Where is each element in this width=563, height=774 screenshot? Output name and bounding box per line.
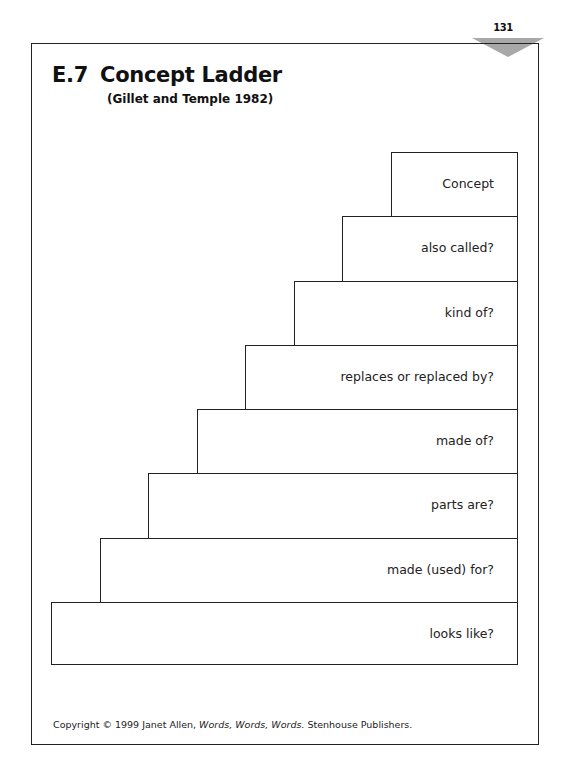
ladder-step-made-of[interactable]: made of? (197, 409, 518, 474)
step-label: replaces or replaced by? (341, 369, 495, 384)
ladder-step-looks-like[interactable]: looks like? (51, 602, 518, 665)
step-label: Concept (442, 176, 494, 191)
copyright-notice: Copyright © 1999 Janet Allen, Words, Wor… (53, 719, 412, 730)
page-title: E.7Concept Ladder (52, 63, 282, 87)
copyright-publisher: Stenhouse Publishers. (304, 719, 412, 730)
ladder-step-parts-are[interactable]: parts are? (148, 473, 518, 539)
step-label: parts are? (431, 497, 494, 512)
book-title: Words, Words, Words. (199, 719, 304, 730)
step-label: also called? (421, 240, 494, 255)
page-number: 131 (493, 22, 513, 33)
page-subtitle: (Gillet and Temple 1982) (107, 92, 273, 106)
section-number: E.7 (52, 63, 88, 87)
step-label: made of? (436, 433, 494, 448)
ladder-step-concept[interactable]: Concept (391, 152, 518, 217)
ladder-step-also-called[interactable]: also called? (342, 216, 518, 282)
ladder-step-kind-of[interactable]: kind of? (294, 281, 518, 346)
step-label: kind of? (445, 305, 494, 320)
copyright-prefix: Copyright © 1999 Janet Allen, (53, 719, 199, 730)
step-label: made (used) for? (387, 562, 494, 577)
ladder-step-replaces[interactable]: replaces or replaced by? (245, 345, 518, 410)
title-text: Concept Ladder (100, 63, 282, 87)
ladder-step-made-for[interactable]: made (used) for? (100, 538, 518, 603)
step-label: looks like? (429, 626, 494, 641)
